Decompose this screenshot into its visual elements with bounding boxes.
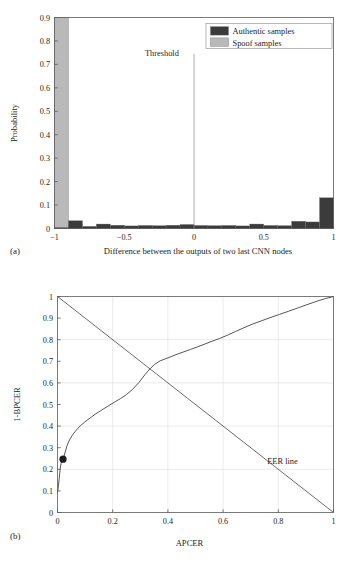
figure-svg: Threshold00.10.20.30.40.50.60.70.80.9−1−… <box>0 0 342 569</box>
panel-a-y-tick-label: 0.2 <box>40 178 50 187</box>
panel-a-bar <box>55 18 69 229</box>
panel-a-bar <box>138 225 152 228</box>
panel-a-legend: Authentic samplesSpoof samples <box>206 24 332 49</box>
panel-a-y-tick-label: 0.7 <box>40 60 50 69</box>
legend-label-spoof: Spoof samples <box>233 39 282 48</box>
panel-b-y-tick-label: 1 <box>49 293 53 302</box>
panel-a-y-tick-label: 0.5 <box>40 107 50 116</box>
threshold-label: Threshold <box>145 49 180 58</box>
panel-a-bar <box>306 222 320 229</box>
panel-b-x-tick-label: 0.6 <box>218 517 228 526</box>
panel-a-label: (a) <box>10 246 20 256</box>
panel-a: Threshold00.10.20.30.40.50.60.70.80.9−1−… <box>9 14 336 257</box>
eer-line-label: EER line <box>267 457 298 466</box>
panel-a-x-tick-label: −0.5 <box>117 233 132 242</box>
panel-a-y-tick-label: 0.9 <box>40 14 50 23</box>
panel-b-x-tick-label: 0.2 <box>108 517 118 526</box>
panel-a-x-axis-title: Difference between the outputs of two la… <box>104 246 293 256</box>
panel-b-y-axis-title: 1-BPCER <box>12 387 22 422</box>
panel-b-x-tick-label: 0.8 <box>273 517 283 526</box>
legend-swatch-authentic <box>211 27 229 35</box>
panel-a-bar <box>222 225 236 228</box>
panel-a-x-tick-label: −1 <box>50 233 59 242</box>
panel-a-bar <box>194 225 208 228</box>
legend-label-authentic: Authentic samples <box>233 27 295 36</box>
panel-a-x-tick-label: 0.5 <box>259 233 269 242</box>
panel-b-x-axis-title: APCER <box>176 538 204 548</box>
panel-b-y-tick-label: 0.2 <box>43 465 53 474</box>
panel-a-bar <box>264 225 278 228</box>
panel-b-label: (b) <box>10 531 21 541</box>
panel-a-bar <box>96 224 110 228</box>
panel-a-x-tick-label: 0 <box>192 233 196 242</box>
panel-a-y-tick-label: 0.8 <box>40 37 50 46</box>
panel-b-y-tick-label: 0.5 <box>43 401 53 410</box>
panel-a-bar <box>166 225 180 228</box>
panel-b-y-tick-label: 0.4 <box>43 422 53 431</box>
panel-b-y-tick-label: 0.8 <box>43 336 53 345</box>
panel-a-bar <box>320 198 334 229</box>
panel-a-y-tick-label: 0.3 <box>40 154 50 163</box>
panel-a-bar <box>292 221 306 228</box>
figure-container: Threshold00.10.20.30.40.50.60.70.80.9−1−… <box>0 0 342 569</box>
operating-point-marker <box>59 456 66 463</box>
panel-a-bar <box>278 226 292 229</box>
panel-a-y-axis-title: Probability <box>9 103 19 142</box>
panel-a-x-tick-label: 1 <box>331 233 335 242</box>
panel-a-y-tick-label: 0.1 <box>40 201 50 210</box>
panel-b: EER line00.10.20.30.40.50.60.70.80.9100.… <box>10 293 336 549</box>
panel-a-bar <box>68 221 82 229</box>
panel-b-y-tick-label: 0 <box>49 509 53 518</box>
panel-b-y-tick-label: 0.1 <box>43 487 53 496</box>
panel-a-bar <box>180 225 194 229</box>
panel-b-x-tick-label: 0.4 <box>163 517 173 526</box>
panel-a-y-tick-label: 0.6 <box>40 84 50 93</box>
panel-b-y-tick-label: 0.3 <box>43 444 53 453</box>
panel-a-bar <box>152 226 166 229</box>
panel-b-x-tick-label: 1 <box>331 517 335 526</box>
panel-a-bar <box>110 225 124 228</box>
panel-b-y-tick-label: 0.6 <box>43 379 53 388</box>
panel-a-bar <box>208 226 222 229</box>
legend-swatch-spoof <box>211 38 229 46</box>
panel-a-y-tick-label: 0.4 <box>40 131 50 140</box>
panel-a-bar <box>250 224 264 228</box>
panel-b-y-tick-label: 0.7 <box>43 357 53 366</box>
panel-b-y-tick-label: 0.9 <box>43 314 53 323</box>
panel-b-x-tick-label: 0 <box>55 517 59 526</box>
